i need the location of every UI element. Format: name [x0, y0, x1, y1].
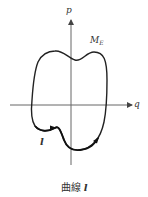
p-axis-label: p: [66, 6, 72, 15]
q-axis-label: q: [134, 100, 140, 109]
curve-label-subscript: E: [99, 39, 103, 46]
trajectory-label: l: [40, 137, 44, 147]
curve-label-base: M: [90, 35, 99, 45]
trajectory-l: [35, 126, 98, 150]
curve-label: ME: [90, 36, 104, 46]
caption-variable: l: [84, 182, 88, 193]
phase-portrait-diagram: [0, 0, 148, 197]
figure-caption: 曲線 l: [0, 179, 148, 194]
caption-text: 曲線: [61, 182, 81, 193]
